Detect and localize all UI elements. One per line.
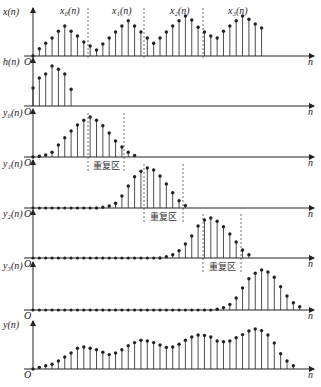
n-axis-label: n <box>308 157 313 168</box>
stem-marker <box>241 286 244 289</box>
stem-marker <box>127 344 130 347</box>
stem-marker <box>139 170 142 173</box>
zero-sample <box>139 308 142 311</box>
zero-sample <box>44 256 47 259</box>
panel-x: x(n)Onx₀(n)x₁(n)x₂(n)x₃(n) <box>2 5 314 67</box>
zero-sample <box>108 308 111 311</box>
zero-sample <box>70 308 73 311</box>
stem-marker <box>108 353 111 356</box>
zero-sample <box>146 256 149 259</box>
stem-marker <box>279 352 282 355</box>
stem-marker <box>260 26 263 29</box>
stem-marker <box>76 347 79 350</box>
y-axis-label: y₃(n) <box>2 260 23 272</box>
stem-marker <box>95 348 98 351</box>
stem-marker <box>57 68 60 71</box>
zero-sample <box>31 308 34 311</box>
stem-marker <box>171 253 174 256</box>
zero-sample <box>50 206 53 209</box>
origin-label: O <box>24 106 31 117</box>
stem-marker <box>222 306 225 309</box>
stem-marker <box>44 364 47 367</box>
zero-sample <box>31 206 34 209</box>
panel-y: y(n)On <box>2 319 314 380</box>
zero-sample <box>50 256 53 259</box>
stem-marker <box>285 294 288 297</box>
stem-marker <box>76 34 79 37</box>
origin-label: O <box>24 310 31 321</box>
stem-marker <box>203 218 206 221</box>
zero-sample <box>89 256 92 259</box>
zero-sample <box>184 308 187 311</box>
stem-marker <box>146 36 149 39</box>
zero-sample <box>76 308 79 311</box>
stem-marker <box>235 296 238 299</box>
overlap-region-label: 重复区 <box>150 211 177 222</box>
zero-sample <box>127 256 130 259</box>
stem-marker <box>228 339 231 342</box>
stem-marker <box>69 88 72 91</box>
stem-marker <box>273 276 276 279</box>
zero-sample <box>44 206 47 209</box>
stem-marker <box>298 305 301 308</box>
stem-marker <box>254 22 257 25</box>
stem-marker <box>158 174 161 177</box>
stem-marker <box>31 155 34 158</box>
n-axis-label: n <box>308 106 313 117</box>
zero-sample <box>50 308 53 311</box>
stem-marker <box>266 333 269 336</box>
stem-marker <box>247 253 250 256</box>
stem-marker <box>95 206 98 209</box>
stem-marker <box>88 115 91 118</box>
stem-marker <box>146 166 149 169</box>
panel-y0: y₀(n)On重复区 <box>2 107 314 171</box>
zero-sample <box>133 308 136 311</box>
stem-marker <box>215 220 218 223</box>
stem-marker <box>215 339 218 342</box>
stem-marker <box>38 47 41 50</box>
stem-marker <box>127 19 130 22</box>
zero-sample <box>101 256 104 259</box>
stem-marker <box>38 366 41 369</box>
overlap-region-label: 重复区 <box>209 261 236 272</box>
stem-marker <box>222 30 225 33</box>
stem-marker <box>273 341 276 344</box>
zero-sample <box>31 256 34 259</box>
stem-marker <box>203 334 206 337</box>
zero-sample <box>76 206 79 209</box>
zero-sample <box>152 256 155 259</box>
stem-marker <box>95 119 98 122</box>
stem-marker <box>254 327 257 330</box>
stem-marker <box>101 42 104 45</box>
stem-marker <box>38 155 41 158</box>
stem-marker <box>108 36 111 39</box>
stem-marker <box>165 30 168 33</box>
panel-h: h(n)On <box>3 56 314 117</box>
stem-marker <box>196 333 199 336</box>
stem-marker <box>171 345 174 348</box>
zero-sample <box>38 308 41 311</box>
stem-marker <box>69 129 72 132</box>
zero-sample <box>108 256 111 259</box>
stem-marker <box>165 182 168 185</box>
stem-marker <box>63 72 66 75</box>
zero-sample <box>82 206 85 209</box>
stem-marker <box>292 364 295 367</box>
zero-sample <box>152 308 155 311</box>
stem-marker <box>260 329 263 332</box>
stem-marker <box>266 270 269 273</box>
stem-marker <box>228 24 231 27</box>
y-axis-label: y₀(n) <box>2 107 23 119</box>
stem-marker <box>108 204 111 207</box>
zero-sample <box>209 308 212 311</box>
origin-label: O <box>24 208 31 219</box>
stem-marker <box>133 24 136 27</box>
stem-marker <box>190 18 193 21</box>
zero-sample <box>120 256 123 259</box>
stem-marker <box>57 143 60 146</box>
zero-sample <box>171 308 174 311</box>
n-axis-label: n <box>308 258 313 269</box>
stem-marker <box>158 36 161 39</box>
stem-marker <box>171 191 174 194</box>
stem-marker <box>82 119 85 122</box>
